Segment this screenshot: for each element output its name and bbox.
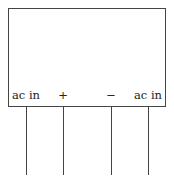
pin-lead-negative bbox=[111, 107, 112, 175]
pin-lead-positive bbox=[63, 107, 64, 175]
pin-lead-ac-in-1 bbox=[26, 107, 27, 175]
pin-label-ac-in-1: ac in bbox=[12, 88, 40, 102]
pin-label-ac-in-2: ac in bbox=[134, 88, 162, 102]
pin-label-positive: + bbox=[58, 88, 68, 102]
pin-label-negative: − bbox=[106, 88, 116, 102]
pin-lead-ac-in-2 bbox=[148, 107, 149, 175]
